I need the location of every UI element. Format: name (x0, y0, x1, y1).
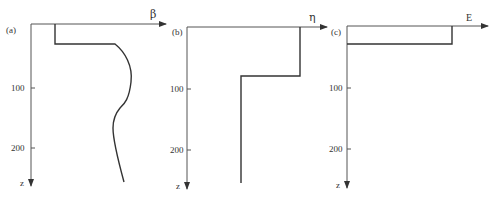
z-label-a: z (20, 178, 24, 188)
variable-label-eta: η (309, 11, 316, 24)
variable-label-E: E (466, 12, 472, 23)
E-profile-step (347, 26, 452, 44)
panel-b: (b) η 100 200 z (170, 11, 327, 191)
tick-label-100-c: 100 (329, 83, 343, 93)
tick-label-100-b: 100 (170, 84, 184, 94)
beta-profile-curve (55, 24, 131, 182)
tick-label-100-a: 100 (11, 83, 25, 93)
panel-label-a: (a) (6, 25, 16, 35)
z-label-b: z (176, 181, 180, 191)
tick-label-200-b: 200 (170, 145, 184, 155)
eta-profile-step (241, 27, 300, 183)
tick-label-200-a: 200 (11, 143, 25, 153)
tick-label-200-c: 200 (329, 144, 343, 154)
panel-label-b: (b) (172, 27, 183, 37)
z-label-c: z (336, 180, 340, 190)
figure-canvas: (a) β 100 200 z (b) η 100 200 z (c) E 10… (0, 0, 503, 201)
panel-label-c: (c) (331, 27, 341, 37)
panel-a: (a) β 100 200 z (6, 8, 166, 188)
panel-c: (c) E 100 200 z (329, 12, 488, 190)
variable-label-beta: β (150, 8, 156, 21)
